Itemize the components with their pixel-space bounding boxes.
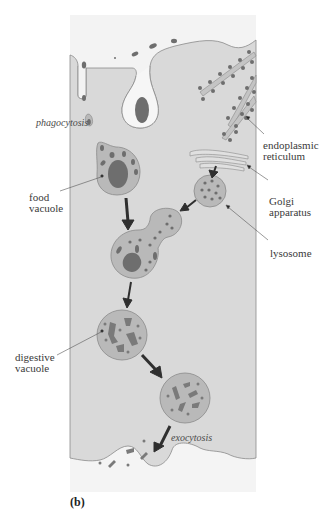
- particle: [114, 57, 116, 59]
- food-particle: [108, 160, 128, 188]
- label-phagocytosis: phagocytosis: [36, 117, 88, 128]
- engulfed-particle: [135, 97, 149, 123]
- label-food-line2: vacuole: [29, 203, 63, 214]
- panel-label: (b): [70, 495, 85, 510]
- label-digestive-vacuole: digestive vacuole: [15, 352, 55, 374]
- label-digestive-line2: vacuole: [15, 363, 55, 374]
- particle: [82, 95, 86, 101]
- particle: [82, 62, 86, 69]
- digestive-vacuole: [97, 310, 147, 360]
- label-exocytosis: exocytosis: [171, 432, 212, 443]
- phagocytosis-diagram: [0, 0, 328, 521]
- label-er-line2: reticulum: [263, 151, 319, 162]
- label-food-vacuole: food vacuole: [29, 192, 63, 214]
- label-lysosome: lysosome: [270, 248, 312, 259]
- membrane-invagination-left: [78, 66, 86, 99]
- label-golgi-line2: apparatus: [269, 207, 311, 218]
- label-endoplasmic-reticulum: endoplasmic reticulum: [263, 140, 319, 162]
- label-golgi-apparatus: Golgi apparatus: [269, 196, 311, 218]
- particle: [171, 39, 177, 43]
